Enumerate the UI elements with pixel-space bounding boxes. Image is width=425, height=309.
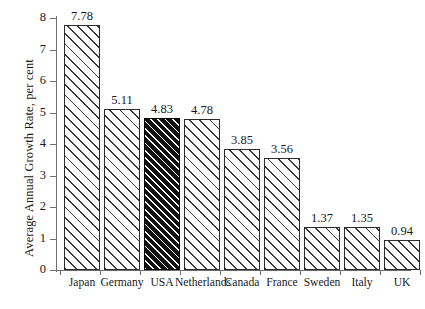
y-tick-label: 5 [40,106,46,119]
bar-sweden[interactable] [304,227,340,270]
bar-canada[interactable] [224,149,260,270]
y-tick-mark [50,176,56,177]
y-tick-mark [50,50,56,51]
y-tick-label: 0 [40,263,46,276]
y-axis-line [56,16,57,272]
y-tick-label: 3 [40,169,46,182]
y-tick-mark [50,144,56,145]
bar-value-label: 3.56 [258,143,306,156]
bar-japan[interactable] [64,25,100,270]
x-tick-mark [260,270,261,275]
y-tick-label: 7 [40,43,46,56]
y-tick-mark [50,18,56,19]
bar-value-label: 7.78 [58,10,106,23]
x-axis-line [56,270,411,271]
y-tick-mark [50,113,56,114]
y-tick-label: 1 [40,232,46,245]
y-tick-label: 8 [40,11,46,24]
y-tick-mark [50,270,56,271]
y-axis-title: Average Annual Growth Rate, per cent [18,28,40,288]
x-tick-mark [340,270,341,275]
x-tick-mark [180,270,181,275]
y-tick-label: 4 [40,137,46,150]
y-tick-label: 6 [40,74,46,87]
bar-value-label: 1.35 [338,212,386,225]
bar-france[interactable] [264,158,300,270]
y-tick-mark [50,81,56,82]
x-tick-mark [60,270,61,275]
bar-uk[interactable] [384,240,420,270]
x-tick-mark [420,270,421,275]
x-tick-mark [100,270,101,275]
x-tick-mark [300,270,301,275]
bar-germany[interactable] [104,109,140,270]
y-tick-mark [50,207,56,208]
x-tick-mark [380,270,381,275]
y-tick-mark [50,239,56,240]
x-tick-mark [140,270,141,275]
bar-value-label: 0.94 [378,225,425,238]
y-tick-label: 2 [40,200,46,213]
bar-italy[interactable] [344,227,380,270]
x-tick-mark [220,270,221,275]
bar-value-label: 4.78 [178,104,226,117]
bar-netherlands[interactable] [184,119,220,270]
x-axis-label-uk: UK [375,276,425,290]
bar-usa[interactable] [144,118,180,270]
